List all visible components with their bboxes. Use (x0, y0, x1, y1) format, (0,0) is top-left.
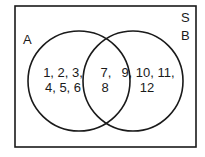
set-b-label: B (181, 28, 190, 43)
universal-set-label: S (181, 10, 190, 25)
venn-diagram: S B A 1, 2, 3, 4, 5, 6 7, 8 9, 10, 11, 1… (0, 0, 205, 157)
a-only-line2: 4, 5, 6 (45, 80, 81, 95)
intersection-line2: 8 (101, 80, 108, 95)
set-a-label: A (23, 32, 32, 47)
b-only-line2: 12 (140, 80, 154, 95)
intersection-line1: 7, (101, 65, 112, 80)
set-b-circle (83, 31, 183, 131)
a-only-line1: 1, 2, 3, (43, 65, 83, 80)
b-only-line1: 9, 10, 11, (121, 65, 174, 80)
